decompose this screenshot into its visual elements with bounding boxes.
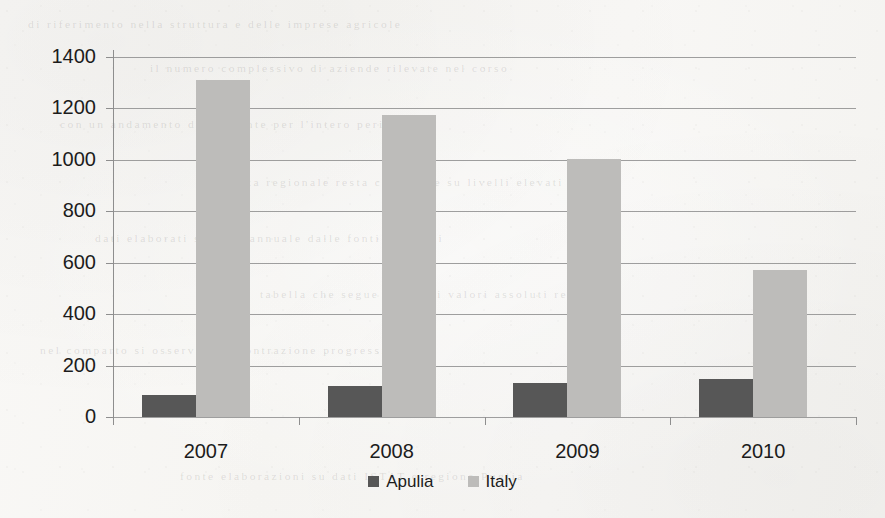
y-axis-tick-label: 600 <box>10 252 96 272</box>
y-axis-tick <box>106 366 113 367</box>
legend-item-apulia[interactable]: Apulia <box>368 472 433 491</box>
y-axis-tick <box>106 263 113 264</box>
y-axis-tick <box>106 108 113 109</box>
y-axis-tick-label: 800 <box>10 200 96 220</box>
y-axis-tick <box>106 211 113 212</box>
x-axis-tick <box>670 417 671 425</box>
legend-label: Apulia <box>386 472 433 491</box>
x-axis-tick <box>485 417 486 425</box>
y-axis-tick <box>106 160 113 161</box>
bar-italy-2009 <box>567 159 621 417</box>
bar-apulia-2010 <box>699 379 753 417</box>
chart-legend: ApuliaItaly <box>0 472 885 491</box>
bar-italy-2008 <box>382 115 436 417</box>
legend-swatch-italy-icon <box>468 476 479 487</box>
bar-apulia-2007 <box>142 395 196 417</box>
x-axis-tick <box>856 417 857 425</box>
bar-italy-2007 <box>196 80 250 417</box>
x-axis-tick-label-2008: 2008 <box>299 440 485 462</box>
legend-item-italy[interactable]: Italy <box>468 472 517 491</box>
legend-label: Italy <box>486 472 517 491</box>
x-axis-tick <box>299 417 300 425</box>
x-axis-tick-label-2010: 2010 <box>670 440 856 462</box>
y-axis-tick-label: 400 <box>10 303 96 323</box>
x-axis-tick-label-2009: 2009 <box>485 440 671 462</box>
bar-apulia-2009 <box>513 383 567 417</box>
y-axis-tick <box>106 57 113 58</box>
bar-apulia-2008 <box>328 386 382 417</box>
y-axis-tick <box>106 314 113 315</box>
bar-chart: 0200400600800100012001400 20072008200920… <box>0 0 885 518</box>
y-axis-tick-label: 0 <box>10 406 96 426</box>
y-axis-tick-label: 1000 <box>10 149 96 169</box>
legend-swatch-apulia-icon <box>368 476 379 487</box>
x-axis-tick-label-2007: 2007 <box>113 440 299 462</box>
x-axis-tick <box>113 417 114 425</box>
y-axis-tick-label: 1400 <box>10 46 96 66</box>
y-axis-tick-label: 1200 <box>10 97 96 117</box>
bar-italy-2010 <box>753 270 807 417</box>
y-axis-tick <box>106 417 113 418</box>
gridline <box>113 57 856 58</box>
plot-area <box>113 57 856 417</box>
y-axis-tick-label: 200 <box>10 355 96 375</box>
